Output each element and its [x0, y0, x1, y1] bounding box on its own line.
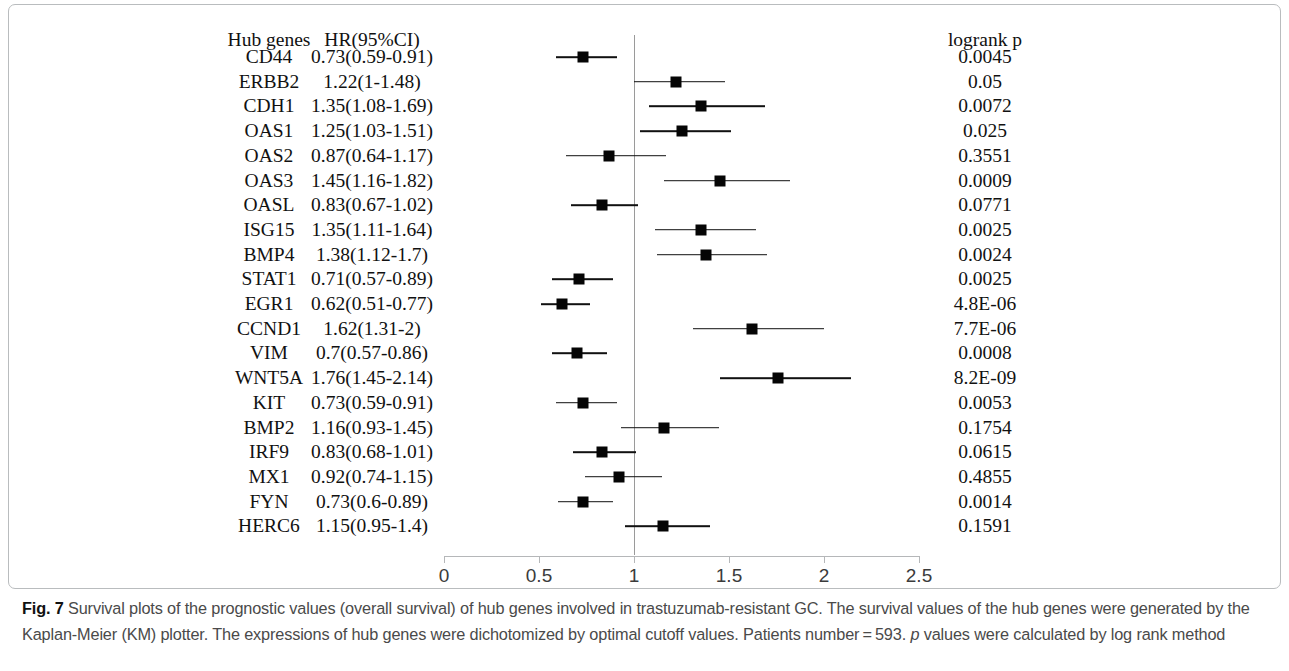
logrank-p-value: 0.1754 [909, 417, 1061, 439]
hr-point-marker [676, 126, 687, 137]
confidence-interval-line [664, 180, 789, 182]
hr-value: 0.87(0.64-1.17) [277, 145, 467, 167]
axis-tick-label: 0 [439, 565, 450, 587]
hr-point-marker [670, 76, 681, 87]
caption-text-part2: values were calculated by log rank metho… [919, 625, 1225, 643]
hr-point-marker [596, 200, 607, 211]
hr-point-marker [701, 249, 712, 260]
logrank-p-value: 0.0615 [909, 441, 1061, 463]
hr-value: 0.73(0.59-0.91) [277, 392, 467, 414]
hr-value: 1.15(0.95-1.4) [277, 515, 467, 537]
logrank-p-value: 0.0008 [909, 342, 1061, 364]
hr-point-marker [714, 175, 725, 186]
logrank-p-value: 8.2E-09 [909, 367, 1061, 389]
hr-value: 1.25(1.03-1.51) [277, 120, 467, 142]
hr-point-marker [773, 373, 784, 384]
caption-figure-number: Fig. 7 [22, 599, 64, 617]
hr-point-marker [577, 397, 588, 408]
hr-point-marker [573, 274, 584, 285]
logrank-p-value: 0.0771 [909, 194, 1061, 216]
axis-tick-mark [444, 556, 445, 563]
confidence-interval-line [657, 254, 767, 256]
hr-value: 1.76(1.45-2.14) [277, 367, 467, 389]
hr-value: 1.35(1.11-1.64) [277, 219, 467, 241]
figure-page: Hub genes HR(95%CI) logrank p CD440.73(0… [0, 0, 1289, 671]
confidence-interval-line [621, 427, 720, 429]
confidence-interval-line [720, 377, 851, 379]
hr-value: 0.73(0.6-0.89) [277, 491, 467, 513]
figure-caption: Fig. 7 Survival plots of the prognostic … [22, 596, 1272, 647]
hr-value: 1.22(1-1.48) [277, 71, 467, 93]
hr-point-marker [572, 348, 583, 359]
logrank-p-value: 0.0025 [909, 268, 1061, 290]
logrank-p-value: 0.0053 [909, 392, 1061, 414]
hr-value: 1.35(1.08-1.69) [277, 95, 467, 117]
hr-point-marker [577, 52, 588, 63]
logrank-p-value: 7.7E-06 [909, 318, 1061, 340]
logrank-p-value: 4.8E-06 [909, 293, 1061, 315]
axis-tick-label: 2.5 [906, 565, 932, 587]
hr-value: 0.83(0.68-1.01) [277, 441, 467, 463]
hr-value: 1.45(1.16-1.82) [277, 170, 467, 192]
logrank-p-value: 0.0045 [909, 46, 1061, 68]
hr-point-marker [695, 224, 706, 235]
axis-tick-mark [919, 556, 920, 563]
caption-italic-p: p [910, 625, 919, 643]
hr-point-marker [604, 150, 615, 161]
axis-tick-mark [729, 556, 730, 563]
logrank-p-value: 0.025 [909, 120, 1061, 142]
hr-value: 1.38(1.12-1.7) [277, 244, 467, 266]
logrank-p-value: 0.1591 [909, 515, 1061, 537]
hr-point-marker [746, 323, 757, 334]
hr-value: 1.62(1.31-2) [277, 318, 467, 340]
hr-value: 0.92(0.74-1.15) [277, 466, 467, 488]
confidence-interval-line [693, 328, 824, 330]
axis-tick-label: 1 [629, 565, 640, 587]
hr-point-marker [577, 496, 588, 507]
axis-tick-mark [824, 556, 825, 563]
logrank-p-value: 0.05 [909, 71, 1061, 93]
hr-point-marker [556, 299, 567, 310]
hr-value: 1.16(0.93-1.45) [277, 417, 467, 439]
hr-point-marker [659, 422, 670, 433]
confidence-interval-line [649, 106, 765, 108]
logrank-p-value: 0.0009 [909, 170, 1061, 192]
logrank-p-value: 0.0024 [909, 244, 1061, 266]
hr-value: 0.73(0.59-0.91) [277, 46, 467, 68]
axis-tick-mark [634, 556, 635, 563]
hr-value: 0.71(0.57-0.89) [277, 268, 467, 290]
axis-tick-label: 2 [819, 565, 830, 587]
hr-point-marker [657, 521, 668, 532]
logrank-p-value: 0.4855 [909, 466, 1061, 488]
hr-value: 0.7(0.57-0.86) [277, 342, 467, 364]
logrank-p-value: 0.0025 [909, 219, 1061, 241]
hr-point-marker [596, 447, 607, 458]
hr-point-marker [613, 471, 624, 482]
logrank-p-value: 0.0072 [909, 95, 1061, 117]
x-axis-line [444, 556, 919, 557]
axis-tick-label: 1.5 [716, 565, 742, 587]
hr-value: 0.83(0.67-1.02) [277, 194, 467, 216]
axis-tick-mark [539, 556, 540, 563]
logrank-p-value: 0.0014 [909, 491, 1061, 513]
logrank-p-value: 0.3551 [909, 145, 1061, 167]
confidence-interval-line [566, 155, 667, 157]
hr-point-marker [695, 101, 706, 112]
hr-value: 0.62(0.51-0.77) [277, 293, 467, 315]
axis-tick-label: 0.5 [526, 565, 552, 587]
figure-frame: Hub genes HR(95%CI) logrank p CD440.73(0… [8, 4, 1281, 589]
forest-plot: Hub genes HR(95%CI) logrank p CD440.73(0… [9, 5, 1282, 590]
